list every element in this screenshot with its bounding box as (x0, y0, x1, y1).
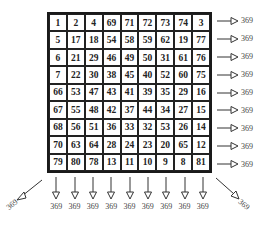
grid-cell: 31 (156, 49, 174, 66)
grid-cell: 22 (67, 66, 85, 83)
row-sum: 369 (217, 140, 266, 152)
grid-cell: 29 (85, 49, 103, 66)
grid-cell: 61 (174, 49, 192, 66)
grid-cell: 50 (138, 49, 156, 66)
arrow-down-right-icon (214, 176, 264, 220)
grid-cell: 47 (85, 84, 103, 101)
grid-cell: 43 (103, 84, 121, 101)
grid-cell: 42 (103, 101, 121, 118)
row-sum-label: 369 (241, 52, 253, 61)
row-sum: 369 (217, 15, 266, 27)
row-sum-label: 369 (241, 160, 253, 169)
grid-cell: 4 (85, 14, 103, 31)
grid-cell: 68 (49, 119, 67, 136)
grid-cell: 23 (138, 136, 156, 153)
arrow-down-icon (88, 177, 98, 201)
grid-cell: 14 (192, 119, 210, 136)
grid-cell: 12 (192, 136, 210, 153)
row-sum-label: 369 (241, 142, 253, 151)
grid-cell: 40 (138, 66, 156, 83)
grid-cell: 34 (156, 101, 174, 118)
column-sum: 369 (194, 177, 212, 211)
grid-cell: 77 (192, 31, 210, 48)
grid-cell: 69 (103, 14, 121, 31)
arrow-down-icon (198, 177, 208, 201)
grid-cell: 38 (103, 66, 121, 83)
grid-cell: 13 (103, 154, 121, 171)
row-sum-label: 369 (241, 88, 253, 97)
grid-cell: 32 (138, 119, 156, 136)
grid-cell: 2 (67, 14, 85, 31)
column-sum-label: 369 (124, 202, 136, 211)
grid-cell: 24 (121, 136, 139, 153)
grid-cell: 71 (121, 14, 139, 31)
anti-diagonal-sum: 369 (4, 178, 44, 218)
grid-cell: 39 (138, 84, 156, 101)
column-sum: 369 (157, 177, 175, 211)
grid-cell: 10 (138, 154, 156, 171)
grid-cell: 53 (67, 84, 85, 101)
grid-cell: 66 (49, 84, 67, 101)
grid-cell: 81 (192, 154, 210, 171)
arrow-down-icon (51, 177, 61, 201)
column-sum: 369 (66, 177, 84, 211)
arrow-right-icon (217, 16, 239, 26)
grid-cell: 75 (192, 66, 210, 83)
column-sum-label: 369 (105, 202, 117, 211)
column-sum-label: 369 (87, 202, 99, 211)
column-sum-label: 369 (50, 202, 62, 211)
row-sum-label: 369 (241, 16, 253, 25)
grid-cell: 15 (192, 101, 210, 118)
arrow-right-icon (217, 88, 239, 98)
grid-cell: 76 (192, 49, 210, 66)
grid-cell: 60 (174, 66, 192, 83)
grid-cell: 20 (156, 136, 174, 153)
row-sum: 369 (217, 158, 266, 170)
grid-cell: 51 (85, 119, 103, 136)
grid-cell: 56 (67, 119, 85, 136)
arrow-down-icon (180, 177, 190, 201)
row-sum: 369 (217, 104, 266, 116)
grid-cell: 62 (156, 31, 174, 48)
grid-cell: 78 (85, 154, 103, 171)
arrow-right-icon (217, 123, 239, 133)
row-sum-label: 369 (241, 106, 253, 115)
grid-cell: 41 (121, 84, 139, 101)
grid-cell: 37 (121, 101, 139, 118)
row-sum: 369 (217, 87, 266, 99)
grid-cell: 16 (192, 84, 210, 101)
column-sum: 369 (139, 177, 157, 211)
grid-cell: 18 (85, 31, 103, 48)
arrow-down-icon (70, 177, 80, 201)
grid-cell: 48 (85, 101, 103, 118)
grid-cell: 63 (67, 136, 85, 153)
arrow-right-icon (217, 70, 239, 80)
column-sum: 369 (47, 177, 65, 211)
arrow-right-icon (217, 34, 239, 44)
row-sum-label: 369 (241, 124, 253, 133)
grid-cell: 72 (138, 14, 156, 31)
grid-cell: 64 (85, 136, 103, 153)
grid-cell: 6 (49, 49, 67, 66)
grid-cell: 3 (192, 14, 210, 31)
grid-cell: 80 (67, 154, 85, 171)
column-sum-label: 369 (179, 202, 191, 211)
row-sum: 369 (217, 51, 266, 63)
arrow-down-icon (125, 177, 135, 201)
grid-cell: 26 (174, 119, 192, 136)
grid-cell: 36 (103, 119, 121, 136)
grid-cell: 7 (49, 66, 67, 83)
grid-cell: 44 (138, 101, 156, 118)
grid-cell: 55 (67, 101, 85, 118)
arrow-down-icon (143, 177, 153, 201)
grid-cell: 65 (174, 136, 192, 153)
column-sum-label: 369 (197, 202, 209, 211)
magic-square-grid: 1246971727374351718545859621977621294649… (47, 12, 212, 173)
grid-cell: 45 (121, 66, 139, 83)
row-sum-label: 369 (241, 34, 253, 43)
arrow-right-icon (217, 159, 239, 169)
row-sum: 369 (217, 122, 266, 134)
column-sum: 369 (121, 177, 139, 211)
arrow-right-icon (217, 141, 239, 151)
grid-cell: 27 (174, 101, 192, 118)
